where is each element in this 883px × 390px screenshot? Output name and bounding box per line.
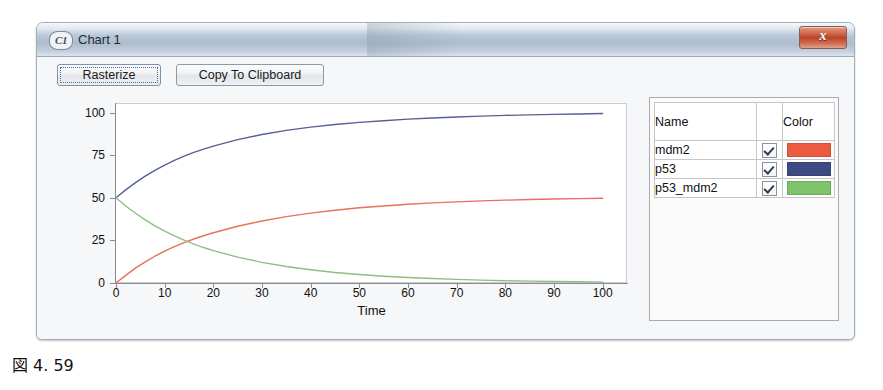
- legend-table: Name Color mdm2p53p53_mdm2: [654, 102, 835, 198]
- legend-visibility-cell[interactable]: [757, 179, 783, 198]
- y-axis-tick-mark: [110, 283, 115, 284]
- chart-container: 0255075100 0102030405060708090100 Time: [55, 97, 635, 321]
- x-axis-tick-label: 100: [583, 287, 623, 299]
- toolbar: Rasterize Copy To Clipboard: [37, 57, 854, 91]
- x-axis-tick-label: 0: [96, 287, 136, 299]
- close-icon: x: [800, 28, 846, 44]
- y-axis-tick-mark: [110, 198, 115, 199]
- y-axis-tick-mark: [110, 240, 115, 241]
- window-titlebar: C1 Chart 1 x: [37, 23, 854, 57]
- legend-series-name: p53_mdm2: [655, 179, 757, 198]
- checkbox-checked-icon[interactable]: [762, 143, 777, 158]
- chart-window: C1 Chart 1 x Rasterize Copy To Clipboard…: [36, 22, 855, 340]
- x-axis-tick-mark: [554, 284, 555, 288]
- x-axis-tick-label: 40: [291, 287, 331, 299]
- x-axis-tick-label: 90: [534, 287, 574, 299]
- series-line-mdm2: [116, 198, 603, 283]
- color-swatch[interactable]: [787, 181, 831, 195]
- legend-row[interactable]: p53_mdm2: [655, 179, 835, 198]
- y-axis-tick-label: 50: [55, 192, 105, 204]
- y-axis-tick-label: 100: [55, 107, 105, 119]
- legend-color-cell[interactable]: [783, 160, 835, 179]
- x-axis-tick-mark: [603, 284, 604, 288]
- x-axis-tick-mark: [213, 284, 214, 288]
- x-axis-tick-mark: [457, 284, 458, 288]
- copy-to-clipboard-button[interactable]: Copy To Clipboard: [176, 64, 324, 86]
- x-axis-tick-mark: [116, 284, 117, 288]
- close-button[interactable]: x: [799, 26, 847, 49]
- app-logo-icon: C1: [49, 31, 73, 50]
- plot-curves: [55, 97, 635, 297]
- window-title: Chart 1: [78, 32, 121, 47]
- legend-header-name: Name: [655, 103, 757, 141]
- x-axis-tick-label: 10: [145, 287, 185, 299]
- y-axis-tick-label: 25: [55, 234, 105, 246]
- checkbox-checked-icon[interactable]: [762, 162, 777, 177]
- rasterize-button-label: Rasterize: [83, 68, 136, 82]
- y-axis-tick-mark: [110, 113, 115, 114]
- x-axis-title: Time: [115, 303, 628, 318]
- x-axis-tick-mark: [262, 284, 263, 288]
- x-axis-tick-label: 50: [339, 287, 379, 299]
- legend-visibility-cell[interactable]: [757, 160, 783, 179]
- legend-header-visible: [757, 103, 783, 141]
- x-axis-tick-label: 70: [437, 287, 477, 299]
- legend-row[interactable]: p53: [655, 160, 835, 179]
- legend-series-name: p53: [655, 160, 757, 179]
- rasterize-button[interactable]: Rasterize: [57, 64, 161, 86]
- figure-caption: 図 4. 59: [12, 352, 74, 376]
- series-line-p53: [116, 114, 603, 198]
- legend-row[interactable]: mdm2: [655, 141, 835, 160]
- x-axis-tick-label: 20: [193, 287, 233, 299]
- x-axis-tick-mark: [165, 284, 166, 288]
- legend-visibility-cell[interactable]: [757, 141, 783, 160]
- copy-to-clipboard-button-label: Copy To Clipboard: [199, 68, 302, 82]
- legend-header-row: Name Color: [655, 103, 835, 141]
- series-line-p53_mdm2: [116, 198, 603, 282]
- x-axis-tick-mark: [311, 284, 312, 288]
- x-axis-tick-mark: [359, 284, 360, 288]
- legend-panel: Name Color mdm2p53p53_mdm2: [649, 97, 839, 321]
- x-axis-tick-label: 60: [388, 287, 428, 299]
- color-swatch[interactable]: [787, 162, 831, 176]
- legend-rows: mdm2p53p53_mdm2: [655, 141, 835, 198]
- legend-header-color: Color: [783, 103, 835, 141]
- x-axis-tick-mark: [408, 284, 409, 288]
- x-axis-tick-mark: [505, 284, 506, 288]
- checkbox-checked-icon[interactable]: [762, 181, 777, 196]
- window-client-area: Rasterize Copy To Clipboard 0255075100 0…: [37, 57, 854, 339]
- x-axis-tick-label: 80: [485, 287, 525, 299]
- legend-series-name: mdm2: [655, 141, 757, 160]
- color-swatch[interactable]: [787, 143, 831, 157]
- y-axis-tick-mark: [110, 155, 115, 156]
- x-axis-tick-label: 30: [242, 287, 282, 299]
- y-axis-tick-label: 75: [55, 149, 105, 161]
- legend-color-cell[interactable]: [783, 141, 835, 160]
- legend-color-cell[interactable]: [783, 179, 835, 198]
